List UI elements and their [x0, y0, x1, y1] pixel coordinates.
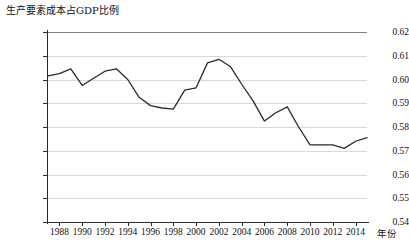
plot-area	[48, 32, 367, 222]
x-axis-tick-mark	[196, 222, 197, 226]
x-axis-tick-mark	[356, 222, 357, 226]
y-axis-tick-label: 0.54	[367, 217, 409, 227]
x-axis-tick-mark	[264, 222, 265, 226]
y-axis-tick-mark	[43, 222, 48, 223]
y-axis-tick-label: 0.59	[367, 98, 409, 108]
y-axis-tick-label: 0.55	[367, 193, 409, 203]
chart-container: 生产要素成本占GDP比例 0.620.610.600.590.580.570.5…	[0, 0, 409, 251]
x-axis-tick-mark	[173, 222, 174, 226]
y-axis-tick-mark	[43, 32, 48, 33]
series-line	[48, 32, 367, 222]
y-axis-tick-mark	[43, 80, 48, 81]
y-axis-tick-mark	[43, 198, 48, 199]
x-axis-tick-mark	[128, 222, 129, 226]
y-axis-tick-label: 0.61	[367, 51, 409, 61]
x-axis-tick-mark	[82, 222, 83, 226]
x-axis-tick-mark	[310, 222, 311, 226]
y-axis-tick-label: 0.56	[367, 170, 409, 180]
x-axis-tick-mark	[333, 222, 334, 226]
y-axis-tick-mark	[43, 56, 48, 57]
x-axis-title: 年份	[377, 228, 397, 239]
y-axis-tick-label: 0.58	[367, 122, 409, 132]
y-axis-tick-label: 0.60	[367, 75, 409, 85]
x-axis-tick-mark	[105, 222, 106, 226]
y-axis-tick-mark	[43, 103, 48, 104]
x-axis-line	[44, 222, 369, 223]
y-axis-tick-mark	[43, 151, 48, 152]
y-axis-tick-mark	[43, 175, 48, 176]
y-axis-tick-label: 0.57	[367, 146, 409, 156]
y-axis-tick-mark	[43, 127, 48, 128]
x-axis-tick-mark	[242, 222, 243, 226]
x-axis-tick-mark	[219, 222, 220, 226]
x-axis-tick-mark	[287, 222, 288, 226]
y-axis-tick-label: 0.62	[367, 27, 409, 37]
x-axis-tick-label: 2014	[339, 227, 373, 238]
chart-title: 生产要素成本占GDP比例	[6, 5, 119, 17]
x-axis-tick-mark	[151, 222, 152, 226]
x-axis-tick-mark	[59, 222, 60, 226]
